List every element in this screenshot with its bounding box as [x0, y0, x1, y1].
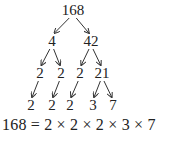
tree-edge-arrow: [94, 81, 100, 97]
tree-node: 2: [66, 98, 74, 113]
prime-factorization-equation: 168 = 2 × 2 × 2 × 3 × 7: [2, 116, 156, 134]
factor-tree-arrows: [0, 0, 172, 110]
tree-node: 21: [95, 66, 110, 81]
tree-edge-arrow: [81, 49, 89, 65]
tree-node: 2: [48, 98, 56, 113]
tree-edge-arrow: [41, 49, 49, 65]
tree-node: 4: [48, 34, 56, 49]
tree-node: 7: [109, 98, 117, 113]
tree-node: 168: [62, 3, 85, 18]
tree-node: 2: [27, 98, 35, 113]
tree-edge-arrow: [55, 18, 70, 33]
tree-node: 2: [57, 66, 65, 81]
tree-node: 2: [36, 66, 44, 81]
tree-edge-arrow: [32, 81, 38, 97]
tree-edge-arrow: [104, 81, 112, 97]
tree-node: 2: [76, 66, 84, 81]
tree-edge-arrow: [93, 49, 101, 65]
tree-edge-arrow: [54, 49, 60, 65]
tree-edge-arrow: [76, 18, 89, 33]
tree-edge-arrow: [53, 81, 59, 97]
tree-node: 42: [84, 34, 99, 49]
tree-node: 3: [89, 98, 97, 113]
tree-edge-arrow: [71, 81, 78, 97]
